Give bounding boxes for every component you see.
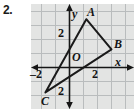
- x-tick-positive-2: 2: [92, 68, 98, 80]
- vertex-label-b: B: [114, 38, 122, 50]
- vertex-label-c: C: [41, 95, 49, 107]
- y-axis-label: y: [72, 8, 77, 20]
- problem-number: 2.: [3, 3, 12, 17]
- x-tick-negative-2: –2: [30, 68, 42, 80]
- origin-label: O: [72, 51, 81, 63]
- exercise-figure-panel: 2.: [0, 0, 135, 111]
- vertex-label-a: A: [87, 6, 95, 18]
- y-tick-negative-2: 2: [58, 85, 64, 97]
- x-axis-label: x: [115, 56, 121, 68]
- y-tick-positive-2: 2: [58, 27, 64, 39]
- coordinate-plane-figure: y x O 2 2 –2 2 A B C: [31, 4, 134, 109]
